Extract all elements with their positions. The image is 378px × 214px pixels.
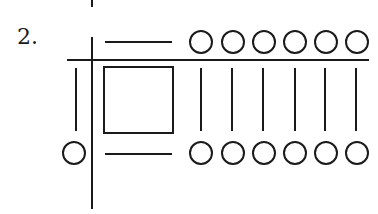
top-circle-6 [346,31,368,53]
top-circle-1 [190,31,212,53]
bottom-circle-4 [284,142,306,164]
top-circle-4 [284,31,306,53]
vertical-tick-row [201,68,356,131]
bottom-circle-5 [315,142,337,164]
top-circle-row [190,31,368,53]
square-shape [104,67,173,133]
top-circle-2 [222,31,244,53]
bottom-circle-2 [222,142,244,164]
bottom-circle-6 [346,142,368,164]
left-circle-shape [63,142,85,164]
top-circle-5 [315,31,337,53]
bottom-circle-row [190,142,368,164]
bottom-circle-3 [253,142,275,164]
top-circle-3 [253,31,275,53]
circle-line-diagram [0,0,378,214]
bottom-circle-1 [190,142,212,164]
